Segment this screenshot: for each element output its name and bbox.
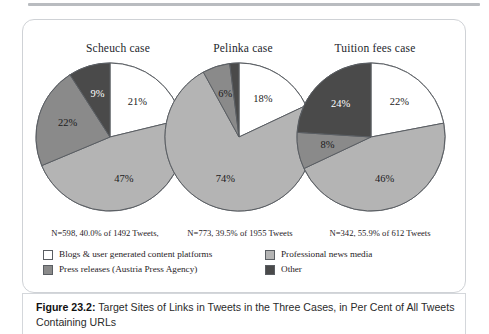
- legend-label-blogs-ugc: Blogs & user generated content platforms: [59, 250, 212, 259]
- figure-page: Scheuch case Pelinka case Tuition fees c…: [0, 0, 489, 334]
- legend-swatch-blogs-ugc: [43, 250, 53, 260]
- pie-slice-label: 46%: [375, 173, 395, 184]
- legend-swatch-press-releases: [43, 265, 53, 275]
- pie-slice-label: 22%: [390, 96, 410, 107]
- figure-caption-text: Target Sites of Links in Tweets in the T…: [36, 301, 454, 328]
- legend-item-other: Other: [265, 265, 302, 275]
- sample-size-row: N=598, 40.0% of 1492 Tweets, N=773, 39.5…: [23, 228, 467, 244]
- legend-item-professional-news: Professional news media: [265, 250, 372, 260]
- figure-caption: Figure 23.2: Target Sites of Links in Tw…: [36, 300, 466, 330]
- pie-slice-label: 9%: [91, 88, 105, 99]
- pie-slice-label: 8%: [320, 139, 334, 150]
- pie-slice-label: 22%: [58, 117, 78, 128]
- legend-label-press-releases: Press releases (Austria Press Agency): [59, 265, 197, 274]
- pie-chart-pelinka: 18%74%6%: [163, 61, 315, 213]
- pie-slice-label: 47%: [114, 173, 133, 184]
- pie-svg-tuition-fees: 22%46%8%24%: [295, 61, 447, 213]
- sample-size-tuition-fees: N=342, 55.9% of 612 Tweets: [305, 228, 455, 238]
- sample-size-scheuch: N=598, 40.0% of 1492 Tweets,: [35, 228, 175, 238]
- legend-label-other: Other: [281, 265, 302, 274]
- legend-label-professional-news: Professional news media: [281, 250, 372, 259]
- pie-slice-label: 18%: [253, 93, 272, 104]
- caption-divider: [22, 293, 466, 294]
- pie-svg-pelinka: 18%74%6%: [163, 61, 315, 213]
- sample-size-pelinka: N=773, 39.5% of 1955 Tweets: [169, 228, 311, 238]
- legend-item-blogs-ugc: Blogs & user generated content platforms: [43, 250, 212, 260]
- legend-swatch-professional-news: [265, 250, 275, 260]
- legend: Blogs & user generated content platforms…: [43, 250, 453, 280]
- pie-slice-label: 74%: [216, 173, 236, 184]
- page-top-rule: [28, 3, 480, 6]
- caption-rail-left: [22, 293, 23, 334]
- pie-slice-label: 6%: [218, 88, 232, 99]
- figure-caption-label: Figure 23.2:: [36, 301, 95, 313]
- legend-item-press-releases: Press releases (Austria Press Agency): [43, 265, 197, 275]
- pie-slice-label: 24%: [331, 98, 351, 109]
- pie-chart-tuition-fees: 22%46%8%24%: [295, 61, 447, 213]
- figure-card: Scheuch case Pelinka case Tuition fees c…: [22, 19, 466, 293]
- pie-slice-label: 21%: [128, 96, 147, 107]
- legend-swatch-other: [265, 265, 275, 275]
